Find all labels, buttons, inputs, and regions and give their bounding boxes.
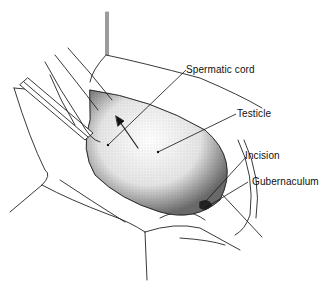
label-incision: Incision (245, 150, 280, 161)
illustration: Spermatic cord Testicle Incision Guberna… (0, 0, 325, 285)
surgical-drawing (0, 0, 325, 285)
label-testicle: Testicle (237, 108, 271, 119)
label-gubernaculum: Gubernaculum (252, 176, 319, 187)
label-spermatic-cord: Spermatic cord (186, 64, 255, 75)
